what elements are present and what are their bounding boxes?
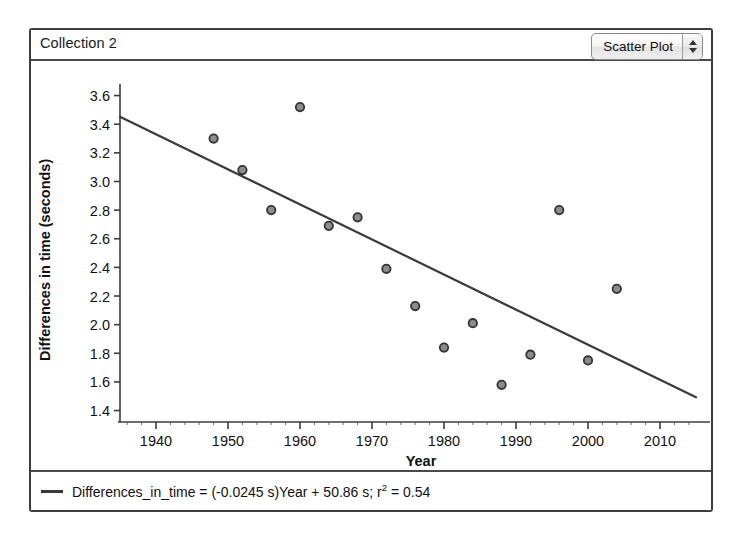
y-tick-label: 3.4	[90, 117, 110, 133]
data-point[interactable]	[613, 285, 621, 293]
legend-line-swatch-icon	[41, 490, 63, 493]
x-tick-label: 1950	[212, 433, 244, 449]
x-tick-label: 1990	[500, 433, 532, 449]
data-point[interactable]	[209, 134, 217, 142]
x-tick-label: 1980	[428, 433, 460, 449]
x-axis-title: Year	[406, 453, 437, 469]
stepper-up-arrow-icon[interactable]	[689, 40, 697, 45]
legend: Differences_in_time = (-0.0245 s)Year + …	[31, 470, 711, 510]
graph-title-bar: Collection 2 Scatter Plot	[31, 30, 711, 61]
data-point[interactable]	[440, 343, 448, 351]
y-axis-title-text: Differences in time (seconds)	[37, 159, 53, 361]
x-tick-label: 2000	[572, 433, 604, 449]
legend-equation-text: Differences_in_time = (-0.0245 s)Year + …	[72, 482, 430, 500]
data-point[interactable]	[411, 302, 419, 310]
y-axis-ticks: 1.41.61.82.02.22.42.62.83.03.23.43.6	[90, 88, 120, 419]
y-tick-label: 2.0	[90, 317, 110, 333]
y-tick-label: 3.0	[90, 174, 110, 190]
data-point[interactable]	[584, 356, 592, 364]
data-point[interactable]	[497, 381, 505, 389]
data-point[interactable]	[267, 206, 275, 214]
data-point[interactable]	[238, 166, 246, 174]
y-tick-label: 1.8	[90, 346, 110, 362]
stepper-down-arrow-icon[interactable]	[689, 48, 697, 53]
regression-line	[120, 117, 696, 398]
y-axis-title: Differences in time (seconds)	[37, 159, 53, 361]
y-tick-label: 2.6	[90, 231, 110, 247]
data-point[interactable]	[469, 319, 477, 327]
x-tick-label: 2010	[644, 433, 676, 449]
y-tick-label: 2.2	[90, 289, 110, 305]
data-point[interactable]	[526, 351, 534, 359]
data-point[interactable]	[325, 222, 333, 230]
plot-area[interactable]: Differences in time (seconds) Year 1.41.…	[31, 61, 711, 472]
plot-type-value[interactable]: Scatter Plot	[592, 34, 682, 59]
y-tick-label: 3.2	[90, 145, 110, 161]
x-tick-label: 1970	[356, 433, 388, 449]
y-tick-label: 1.4	[90, 403, 110, 419]
x-axis-title-text: Year	[406, 453, 437, 469]
plot-type-dropdown[interactable]: Scatter Plot	[591, 33, 703, 60]
data-point[interactable]	[353, 213, 361, 221]
x-axis-ticks: 19401950196019701980199020002010	[127, 422, 689, 449]
data-points[interactable]	[209, 103, 621, 389]
collection-title: Collection 2	[40, 35, 117, 51]
y-tick-label: 3.6	[90, 88, 110, 104]
y-tick-label: 2.4	[90, 260, 110, 276]
data-point[interactable]	[555, 206, 563, 214]
graph-window: Collection 2 Scatter Plot Differences in…	[29, 28, 713, 512]
y-tick-label: 2.8	[90, 203, 110, 219]
plot-type-stepper[interactable]	[682, 34, 702, 59]
data-point[interactable]	[296, 103, 304, 111]
x-tick-label: 1960	[284, 433, 316, 449]
x-tick-label: 1940	[140, 433, 172, 449]
y-tick-label: 1.6	[90, 374, 110, 390]
data-point[interactable]	[382, 265, 390, 273]
scatter-plot-svg[interactable]: Differences in time (seconds) Year 1.41.…	[31, 61, 711, 472]
